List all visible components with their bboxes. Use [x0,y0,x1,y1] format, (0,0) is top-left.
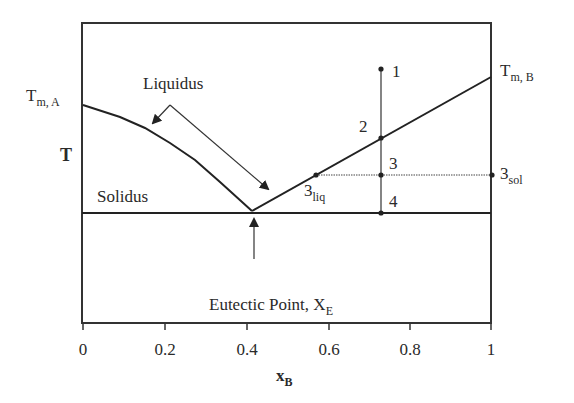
x-axis-label: xB [276,367,293,384]
state-points [313,66,494,215]
point-2-label: 2 [359,118,368,135]
p3liq-main: 3 [304,181,313,200]
p3liq-sub: liq [313,190,326,204]
plot-frame [82,23,491,323]
x-axis-ticks [83,323,491,330]
point-3 [378,172,383,177]
point-2 [378,135,383,140]
x-tick-label-2: 0.4 [236,341,257,358]
tm-b-main: T [500,61,510,80]
y-axis-label: T [60,146,72,164]
x-axis-sub: B [285,375,293,389]
p3sol-main: 3 [500,164,509,183]
liquidus-label: Liquidus [143,75,203,92]
point-3liq [313,172,318,177]
point-3sol [489,172,494,177]
eutectic-sub: E [326,304,333,318]
x-tick-label-5: 1 [487,341,496,358]
tm-a-sub: m, A [36,95,59,109]
point-1 [378,66,383,71]
tm-a-main: T [26,86,36,105]
point-4-label: 4 [389,193,398,210]
x-tick-label-0: 0 [79,341,88,358]
point-1-label: 1 [392,63,401,80]
tm-a-label: Tm, A [26,87,60,104]
eutectic-point-label: Eutectic Point, XE [209,296,333,313]
point-3sol-label: 3sol [500,165,523,182]
liquidus-b-line [252,77,491,211]
x-tick-label-3: 0.6 [318,341,339,358]
x-tick-label-4: 0.8 [399,341,420,358]
point-4 [378,210,383,215]
x-tick-label-1: 0.2 [154,341,175,358]
x-axis-main: x [276,366,285,385]
point-3-label: 3 [389,155,398,172]
tm-b-sub: m, B [510,70,533,84]
solidus-label: Solidus [97,188,148,205]
tm-b-label: Tm, B [500,62,534,79]
liquidus-callout-arrows [153,105,268,189]
point-3liq-label: 3liq [304,182,325,199]
eutectic-main: Eutectic Point, X [209,295,326,314]
p3sol-sub: sol [509,173,523,187]
